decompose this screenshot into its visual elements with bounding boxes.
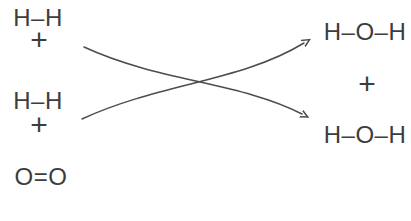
reaction-diagram: H–H + H–H + O=O H–O–H + H–O–H [0,0,411,221]
plus-sign-product: + [355,72,379,96]
product-water-molecule-1: H–O–H [325,19,405,45]
product-water-molecule-2: H–O–H [325,122,405,148]
arrow-to-lower-product [84,47,302,114]
